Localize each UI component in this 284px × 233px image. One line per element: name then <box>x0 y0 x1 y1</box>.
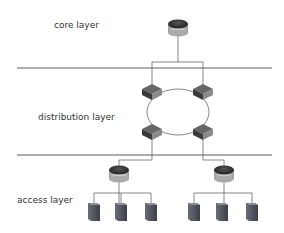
core-links <box>152 36 203 88</box>
switch-icon-top-left[interactable] <box>142 84 162 100</box>
switch-icon-bottom-left[interactable] <box>142 124 162 140</box>
layer-label-distribution: distribution layer <box>38 112 115 122</box>
server-icon[interactable] <box>88 203 100 221</box>
access-router-icon-left[interactable] <box>109 166 129 183</box>
layer-label-core: core layer <box>54 20 99 30</box>
server-icon[interactable] <box>216 203 228 221</box>
server-icon[interactable] <box>145 203 157 221</box>
server-icon[interactable] <box>246 203 258 221</box>
access-router-icon-right[interactable] <box>214 166 234 183</box>
core-router-icon[interactable] <box>168 20 188 37</box>
switch-icon-top-right[interactable] <box>193 84 213 100</box>
server-icon[interactable] <box>188 203 200 221</box>
layer-label-access: access layer <box>17 195 73 205</box>
access-server-links <box>94 182 252 203</box>
distribution-access-links <box>119 138 224 166</box>
switch-icon-bottom-right[interactable] <box>193 124 213 140</box>
server-icon[interactable] <box>115 203 127 221</box>
